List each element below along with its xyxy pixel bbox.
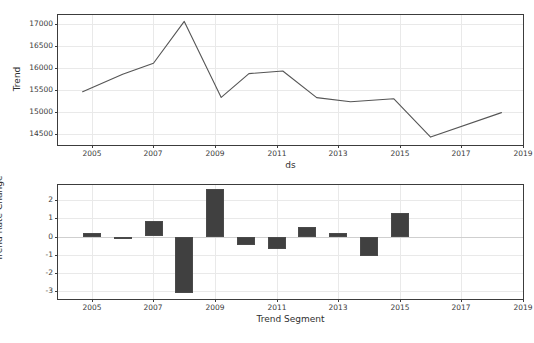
x-tick-label: 2007 xyxy=(143,150,162,158)
bar xyxy=(175,237,193,294)
x-tick xyxy=(523,145,524,148)
y-tick xyxy=(55,273,58,274)
x-tick-label: 2019 xyxy=(513,304,532,312)
y-tick-label: 16500 xyxy=(29,42,53,50)
trend-line-chart: 1450015000155001600016500170002005200720… xyxy=(57,14,524,146)
y-tick xyxy=(55,291,58,292)
bar xyxy=(360,237,378,257)
y-gridline xyxy=(58,200,523,201)
y-tick-label: -2 xyxy=(46,269,53,277)
bar xyxy=(145,221,163,237)
x-tick-label: 2011 xyxy=(267,304,286,312)
trend-rate-change-y-axis-label: Trend Rate Change xyxy=(0,221,4,261)
x-tick xyxy=(92,145,93,148)
trend-y-axis-label: Trend xyxy=(12,59,22,99)
y-tick-label: 2 xyxy=(48,196,53,204)
x-tick-label: 2015 xyxy=(390,150,409,158)
y-gridline xyxy=(58,255,523,256)
y-tick xyxy=(55,46,58,47)
x-tick-label: 2005 xyxy=(82,304,101,312)
y-tick xyxy=(55,200,58,201)
x-tick xyxy=(400,145,401,148)
x-tick-label: 2017 xyxy=(451,150,470,158)
bar xyxy=(237,237,255,245)
y-gridline xyxy=(58,273,523,274)
y-tick-label: 14500 xyxy=(29,130,53,138)
x-tick xyxy=(215,299,216,302)
trend-rate-change-plot-area xyxy=(58,185,523,299)
x-tick xyxy=(277,145,278,148)
y-tick xyxy=(55,68,58,69)
x-tick-label: 2013 xyxy=(328,150,347,158)
x-gridline xyxy=(461,185,462,299)
y-tick xyxy=(55,24,58,25)
y-tick xyxy=(55,112,58,113)
bar xyxy=(268,237,286,249)
x-tick xyxy=(92,299,93,302)
x-tick-label: 2009 xyxy=(205,150,224,158)
y-tick-label: 16000 xyxy=(29,64,53,72)
y-tick-label: -3 xyxy=(46,287,53,295)
x-tick-label: 2019 xyxy=(513,150,532,158)
y-gridline xyxy=(58,218,523,219)
y-gridline xyxy=(58,291,523,292)
x-tick xyxy=(153,145,154,148)
x-gridline xyxy=(153,185,154,299)
bar xyxy=(391,213,409,237)
y-tick xyxy=(55,237,58,238)
x-tick xyxy=(338,299,339,302)
x-tick xyxy=(215,145,216,148)
x-tick xyxy=(400,299,401,302)
y-tick xyxy=(55,218,58,219)
y-tick-label: 15000 xyxy=(29,108,53,116)
bar xyxy=(298,227,316,237)
bar xyxy=(329,233,347,236)
y-tick-label: 17000 xyxy=(29,20,53,28)
trend-line-plot-area xyxy=(58,15,523,145)
x-tick-label: 2015 xyxy=(390,304,409,312)
x-axis-label: ds xyxy=(58,160,523,170)
bar xyxy=(114,237,132,239)
x-tick xyxy=(461,299,462,302)
y-tick-label: 15500 xyxy=(29,86,53,94)
x-tick xyxy=(338,145,339,148)
x-tick xyxy=(153,299,154,302)
x-tick xyxy=(461,145,462,148)
trend-line-series xyxy=(58,15,523,145)
x-tick-label: 2013 xyxy=(328,304,347,312)
x-tick-label: 2009 xyxy=(205,304,224,312)
y-tick xyxy=(55,255,58,256)
x-tick-label: 2017 xyxy=(451,304,470,312)
y-tick-label: 0 xyxy=(48,233,53,241)
y-tick xyxy=(55,90,58,91)
x-gridline xyxy=(92,185,93,299)
bar xyxy=(206,189,224,236)
y-tick-label: -1 xyxy=(46,251,53,259)
figure-suptitle xyxy=(0,0,534,1)
y-tick xyxy=(55,134,58,135)
x-gridline xyxy=(400,185,401,299)
trend-line-path xyxy=(83,21,502,137)
x-tick xyxy=(277,299,278,302)
x-tick xyxy=(523,299,524,302)
y-tick-label: 1 xyxy=(48,214,53,222)
x-gridline xyxy=(338,185,339,299)
x-tick-label: 2007 xyxy=(143,304,162,312)
bar xyxy=(83,233,101,237)
trend-rate-change-bar-chart: -3-2-10122005200720092011201320152017201… xyxy=(57,184,524,300)
x-axis-label: Trend Segment xyxy=(58,314,523,324)
figure: 1450015000155001600016500170002005200720… xyxy=(0,0,534,343)
x-tick-label: 2005 xyxy=(82,150,101,158)
x-tick-label: 2011 xyxy=(267,150,286,158)
